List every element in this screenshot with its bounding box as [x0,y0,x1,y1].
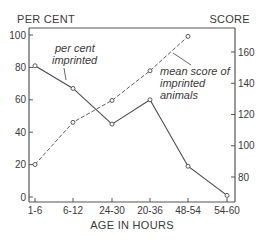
x-tick-label: 6-12 [63,205,83,216]
right-tick-label: 160 [238,47,255,58]
left-tick-label: 40 [15,127,27,138]
right-tick-label: 100 [238,140,255,151]
x-tick-label: 1-6 [28,205,43,216]
right-axis-title: SCORE [209,13,250,25]
data-point-marker [186,34,190,38]
right-tick-label: 120 [238,109,255,120]
x-axis-ticks: 1-66-1224-3020-3648-5454-60 [28,198,240,216]
left-tick-label: 20 [15,159,27,170]
x-axis-title: AGE IN HOURS [90,219,174,231]
data-point-marker [225,193,229,197]
annotation-percent-leader [64,68,66,80]
data-point-marker [33,64,37,68]
annotation-percent-line2: imprinted [52,54,98,66]
data-point-marker [33,163,37,167]
annotation-score-leader [173,53,191,65]
annotation-percent-line1: per cent [54,42,96,54]
data-point-marker [71,86,75,90]
data-point-marker [148,98,152,102]
left-tick-label: 80 [15,62,27,73]
annotation-percent: per cent imprinted [52,42,98,80]
x-tick-label: 20-36 [137,205,163,216]
annotation-score-line2: imprinted [160,77,206,89]
left-axis-title: PER CENT [17,13,75,25]
annotation-score-line1: mean score of [160,65,231,77]
left-tick-label: 100 [9,30,26,41]
x-tick-label: 24-30 [99,205,125,216]
x-tick-label: 54-60 [214,205,240,216]
left-tick-label: 60 [15,94,27,105]
data-point-marker [148,69,152,73]
right-tick-label: 140 [238,78,255,89]
right-tick-label: 80 [238,172,250,183]
imprinting-chart: PER CENT SCORE AGE IN HOURS 020406080100… [0,0,263,242]
x-tick-label: 48-54 [175,205,201,216]
data-point-marker [110,122,114,126]
data-point-marker [186,164,190,168]
annotation-score: mean score of imprinted animals [160,53,231,101]
left-tick-label: 0 [20,192,26,203]
data-point-marker [71,120,75,124]
annotation-score-line3: animals [160,89,198,101]
data-point-marker [110,98,114,102]
